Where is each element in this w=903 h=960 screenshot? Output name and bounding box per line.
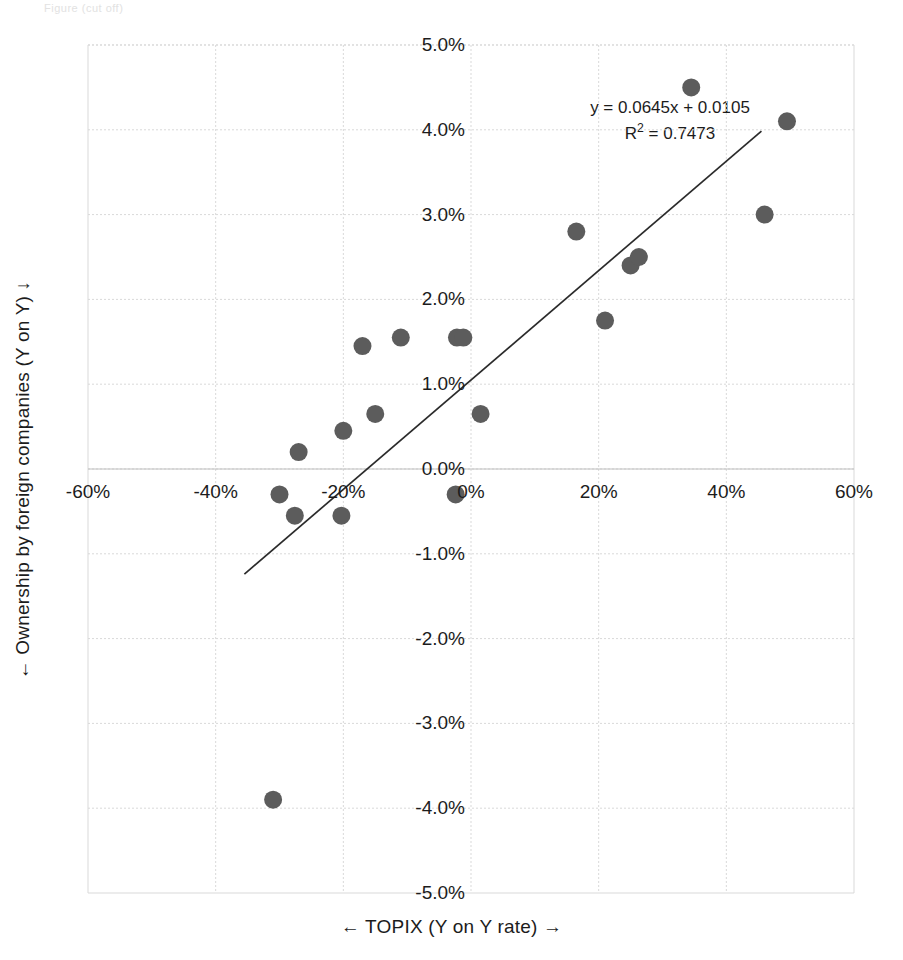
data-point xyxy=(271,485,289,503)
data-point xyxy=(596,312,614,330)
data-point xyxy=(290,443,308,461)
data-point xyxy=(334,422,352,440)
y-axis-tick-label: 0.0% xyxy=(375,458,465,480)
x-axis-tick-label: 0% xyxy=(457,481,484,503)
x-axis-tick-label: -40% xyxy=(193,481,237,503)
y-axis-tick-label: -4.0% xyxy=(375,797,465,819)
data-point-layer xyxy=(264,78,796,808)
trendline xyxy=(244,131,761,574)
x-axis-tick-label: 20% xyxy=(580,481,618,503)
y-axis-tick-label: 2.0% xyxy=(375,288,465,310)
data-point xyxy=(286,507,304,525)
y-axis-tick-label: -2.0% xyxy=(375,628,465,650)
x-axis-tick-label: -20% xyxy=(321,481,365,503)
y-axis-tick-label: 5.0% xyxy=(375,34,465,56)
data-point xyxy=(454,329,472,347)
data-point xyxy=(332,507,350,525)
scatter-chart: Figure (cut off) ← Ownership by foreign … xyxy=(0,0,903,960)
y-axis-tick-label: -1.0% xyxy=(375,543,465,565)
y-axis-tick-label: -3.0% xyxy=(375,712,465,734)
data-point xyxy=(682,78,700,96)
data-point xyxy=(472,405,490,423)
x-axis-tick-label: 60% xyxy=(835,481,873,503)
data-point xyxy=(366,405,384,423)
trendline-layer xyxy=(244,131,761,574)
data-point xyxy=(264,791,282,809)
y-axis-tick-label: 1.0% xyxy=(375,373,465,395)
y-axis-tick-label: -5.0% xyxy=(375,882,465,904)
data-point xyxy=(567,223,585,241)
x-axis-tick-label: -60% xyxy=(66,481,110,503)
data-point xyxy=(756,206,774,224)
data-point xyxy=(630,248,648,266)
x-axis-tick-label: 40% xyxy=(707,481,745,503)
data-point xyxy=(392,329,410,347)
data-point xyxy=(353,337,371,355)
data-point xyxy=(778,112,796,130)
y-axis-tick-label: 4.0% xyxy=(375,119,465,141)
y-axis-tick-label: 3.0% xyxy=(375,204,465,226)
